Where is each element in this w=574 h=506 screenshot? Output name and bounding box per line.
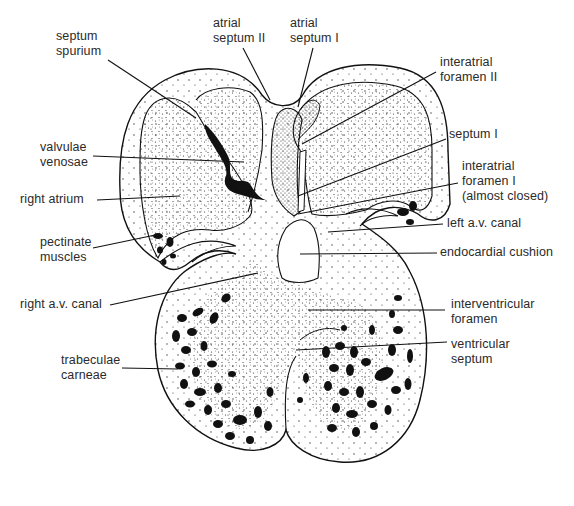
label-right-av-canal: right a.v. canal: [20, 297, 102, 312]
label-endocardial-cushion: endocardial cushion: [440, 245, 553, 260]
label-trabeculae-carneae: trabeculae carneae: [61, 353, 120, 383]
left-atrium-cavity: [293, 82, 432, 215]
label-valvulae-venosae: valvulae venosae: [40, 140, 88, 170]
label-pectinate-muscles: pectinate muscles: [40, 235, 92, 265]
label-septum-i: septum I: [449, 127, 498, 142]
label-atrial-septum-i: atrial septum I: [290, 16, 339, 46]
label-atrial-septum-ii: atrial septum II: [213, 16, 265, 46]
label-ventricular-septum: ventricular septum: [451, 337, 510, 367]
label-interatrial-foramen-ii: interatrial foramen II: [440, 55, 497, 85]
label-septum-spurium: septum spurium: [56, 29, 101, 59]
label-interatrial-foramen-i: interatrial foramen I (almost closed): [462, 159, 548, 204]
embryonic-heart-diagram: septum spurium atrial septum II atrial s…: [0, 0, 574, 506]
label-left-av-canal: left a.v. canal: [447, 216, 521, 231]
label-interventricular-foramen: interventricular foramen: [451, 297, 535, 327]
label-right-atrium: right atrium: [20, 192, 84, 207]
